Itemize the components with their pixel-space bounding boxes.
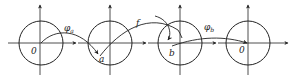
frame-3 — [148, 5, 216, 75]
transformation-diagram: 0 φa a f b φb 0 — [0, 0, 297, 78]
phi-a-subscript: a — [70, 27, 74, 34]
origin-1-label: 0 — [31, 47, 37, 56]
frame-1 — [8, 5, 76, 75]
frame-4 — [218, 5, 288, 75]
phi-a-label: φa — [64, 24, 74, 34]
phi-b-subscript: b — [210, 26, 214, 33]
point-a-label: a — [99, 55, 104, 64]
phi-b-arrow — [172, 38, 247, 46]
frame-2 — [78, 5, 146, 75]
f-arrow-end — [155, 16, 170, 40]
origin-4-label: 0 — [239, 46, 245, 55]
point-b-label: b — [169, 49, 175, 58]
f-label: f — [136, 19, 139, 28]
diagram-canvas — [0, 0, 297, 78]
phi-b-label: φb — [204, 23, 214, 33]
